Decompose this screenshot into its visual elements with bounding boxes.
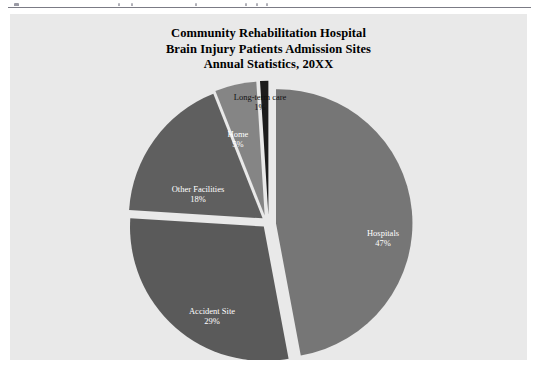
chart-title: Community Rehabilitation Hospital Brain … <box>10 26 527 73</box>
toolbar-strip <box>0 0 539 9</box>
toolbar-glyph-icon[interactable] <box>131 3 133 6</box>
chart-title-line-3: Annual Statistics, 20XX <box>10 57 527 73</box>
toolbar-glyph-icon[interactable] <box>256 3 258 6</box>
chart-title-line-1: Community Rehabilitation Hospital <box>10 26 527 42</box>
toolbar-glyph-icon[interactable] <box>195 3 197 6</box>
toolbar-glyph-icon[interactable] <box>118 3 120 6</box>
toolbar-glyph-icon[interactable] <box>14 3 19 6</box>
chart-panel: Community Rehabilitation Hospital Brain … <box>10 14 527 360</box>
pie-chart: Hospitals 47% Accident Site 29% Other Fa… <box>10 76 527 360</box>
pie-slice-hospitals[interactable] <box>276 89 412 355</box>
pie-chart-svg <box>10 76 527 360</box>
chart-title-line-2: Brain Injury Patients Admission Sites <box>10 42 527 58</box>
pie-slice-accident-site[interactable] <box>130 218 289 360</box>
toolbar-glyph-icon[interactable] <box>245 3 247 6</box>
toolbar-divider <box>8 7 531 8</box>
toolbar-glyph-icon[interactable] <box>266 3 268 6</box>
